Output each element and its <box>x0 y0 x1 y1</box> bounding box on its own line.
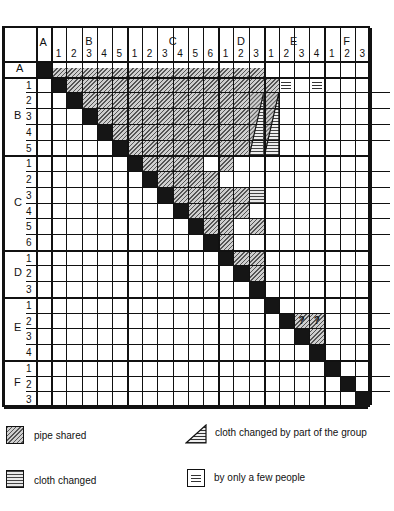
column-item-label: 4 <box>177 48 183 59</box>
column-group-label: C <box>169 36 177 47</box>
column-item-label: 1 <box>329 48 335 59</box>
column-item-label: 2 <box>344 48 350 59</box>
row-item-label: 3 <box>26 284 32 295</box>
grid-line-v <box>355 28 356 405</box>
grid-line-h <box>4 250 368 252</box>
grid-line-h <box>4 77 368 79</box>
grid-line-v <box>4 28 5 405</box>
grid-line-v <box>97 28 98 405</box>
column-group-label: B <box>85 36 92 47</box>
row-item-label: 6 <box>26 237 32 248</box>
row-group-label: C <box>14 197 22 208</box>
grid-line-h <box>26 124 390 125</box>
column-item-label: 2 <box>284 48 290 59</box>
row-item-label: 1 <box>26 300 32 311</box>
row-group-label: D <box>14 267 22 278</box>
grid-line-h <box>26 140 390 141</box>
column-group-label: E <box>290 36 297 47</box>
grid-line-h <box>26 281 390 282</box>
grid-line-v <box>370 28 372 405</box>
cloth-changed-swatch-icon <box>6 470 24 488</box>
column-item-label: 3 <box>253 48 259 59</box>
row-item-label: 1 <box>26 80 32 91</box>
column-item-label: 6 <box>208 48 214 59</box>
column-item-label: 1 <box>268 48 274 59</box>
grid-line-v <box>324 28 326 405</box>
column-group-label: A <box>40 37 47 48</box>
grid-line-h <box>4 407 368 409</box>
column-item-label: 3 <box>299 48 305 59</box>
grid-line-h <box>26 92 390 93</box>
column-group-label: F <box>343 36 350 47</box>
row-item-label: 2 <box>26 174 32 185</box>
row-item-label: 3 <box>26 394 32 405</box>
grid-line-h <box>4 155 368 157</box>
grid-line-h <box>26 218 390 219</box>
row-item-label: 4 <box>26 127 32 138</box>
legend-few-people: by only a few people <box>214 472 305 483</box>
column-item-label: 5 <box>117 48 123 59</box>
grid-line-v <box>294 28 295 405</box>
row-item-label: 3 <box>26 190 32 201</box>
row-item-label: 5 <box>26 221 32 232</box>
row-group-label: F <box>14 377 21 388</box>
grid-line-v <box>203 28 204 405</box>
grid-line-v <box>340 28 341 405</box>
few-people-swatch-icon <box>187 469 205 487</box>
grid-line-h <box>26 265 390 266</box>
grid-line-h <box>26 313 390 314</box>
row-item-label: 2 <box>26 268 32 279</box>
grid-line-v <box>112 28 113 405</box>
matrix-grid: ??AAB1122334455BC112233445566CD112233DE1… <box>2 26 370 407</box>
grid-line-h <box>4 297 368 299</box>
column-item-label: 2 <box>147 48 153 59</box>
grid-line-v <box>142 28 143 405</box>
column-item-label: 1 <box>56 48 62 59</box>
legend-cloth-changed: cloth changed <box>34 475 96 486</box>
grid-line-v <box>66 28 67 405</box>
grid-line-h <box>26 234 390 235</box>
grid-line-v <box>233 28 234 405</box>
grid-line-h <box>26 203 390 204</box>
row-item-label: 2 <box>26 316 32 327</box>
row-item-label: 3 <box>26 111 32 122</box>
legend-pipe-shared: pipe shared <box>34 430 86 441</box>
row-item-label: 1 <box>26 158 32 169</box>
grid-line-h <box>26 171 390 172</box>
column-item-label: 3 <box>359 48 365 59</box>
grid-line-v <box>279 28 280 405</box>
grid-line-h <box>26 344 390 345</box>
cloth-changed-part-swatch-icon <box>185 424 207 444</box>
column-item-label: 1 <box>132 48 138 59</box>
row-item-label: 3 <box>26 331 32 342</box>
row-group-label: A <box>16 63 23 74</box>
grid-line-h <box>26 376 390 377</box>
column-item-label: 5 <box>192 48 198 59</box>
grid-line-v <box>157 28 158 405</box>
column-group-label: D <box>237 36 245 47</box>
row-item-label: 5 <box>26 143 32 154</box>
grid-line-v <box>249 28 250 405</box>
row-group-label: E <box>14 322 21 333</box>
grid-line-v <box>36 28 38 405</box>
grid-line-h <box>26 391 390 392</box>
grid-line-h <box>26 108 390 109</box>
column-item-label: 1 <box>223 48 229 59</box>
grid-line-h <box>4 61 368 63</box>
column-item-label: 2 <box>71 48 77 59</box>
grid-line-v <box>188 28 189 405</box>
column-item-label: 3 <box>86 48 92 59</box>
pipe-shared-swatch-icon <box>6 426 24 444</box>
column-item-label: 4 <box>314 48 320 59</box>
grid-line-v <box>51 28 53 405</box>
grid-line-h <box>4 360 368 362</box>
grid-line-v <box>218 28 220 405</box>
grid-line-v <box>127 28 129 405</box>
row-item-label: 2 <box>26 379 32 390</box>
row-item-label: 1 <box>26 363 32 374</box>
grid-line-v <box>309 28 310 405</box>
column-item-label: 4 <box>101 48 107 59</box>
legend-cloth-changed-part: cloth changed by part of the group <box>215 427 367 438</box>
grid-line-v <box>264 28 266 405</box>
column-item-label: 2 <box>238 48 244 59</box>
